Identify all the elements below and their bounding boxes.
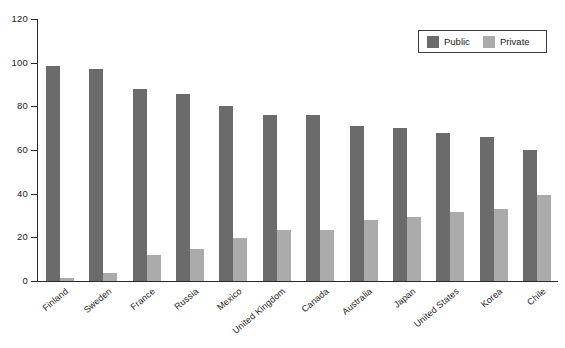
bar-public-russia	[176, 94, 190, 281]
bar-chart: 020406080100120 FinlandSwedenFranceRussi…	[0, 0, 565, 348]
y-axis-tick-label: 120	[0, 13, 28, 24]
bar-private-united-kingdom	[277, 230, 291, 281]
bar-private-france	[147, 255, 161, 281]
bar-public-japan	[393, 128, 407, 281]
legend-label-private: Private	[500, 36, 530, 48]
y-axis-tick-label: 20	[0, 231, 28, 242]
chart-legend: Public Private	[418, 30, 547, 53]
y-axis-tick-label: 100	[0, 57, 28, 68]
plot-area	[37, 19, 558, 281]
bar-private-australia	[364, 220, 378, 281]
y-axis-tick-label: 80	[0, 100, 28, 111]
bar-public-finland	[46, 66, 60, 281]
legend-entry-private: Private	[483, 35, 530, 48]
bar-public-australia	[350, 126, 364, 281]
y-axis-tick-label: 40	[0, 188, 28, 199]
x-axis-line	[37, 281, 558, 282]
bar-private-mexico	[233, 238, 247, 281]
bar-private-finland	[60, 278, 74, 281]
bar-public-sweden	[89, 69, 103, 281]
bar-public-korea	[480, 137, 494, 281]
bar-public-united-kingdom	[263, 115, 277, 281]
bar-public-canada	[306, 115, 320, 281]
y-axis-tick	[31, 281, 37, 282]
legend-label-public: Public	[444, 36, 470, 48]
bar-private-korea	[494, 209, 508, 281]
bar-public-mexico	[219, 106, 233, 281]
bar-private-japan	[407, 217, 421, 281]
bar-private-chile	[537, 195, 551, 281]
legend-swatch-private	[483, 36, 495, 48]
bar-private-russia	[190, 249, 204, 281]
y-axis-tick-label: 60	[0, 144, 28, 155]
bar-public-chile	[523, 150, 537, 281]
bar-public-france	[133, 89, 147, 281]
bar-public-united-states	[436, 133, 450, 281]
bar-private-canada	[320, 230, 334, 281]
legend-entry-public: Public	[427, 35, 470, 48]
y-axis-tick-label: 0	[0, 275, 28, 286]
legend-swatch-public	[427, 36, 439, 48]
bar-private-sweden	[103, 273, 117, 281]
bar-private-united-states	[450, 212, 464, 281]
